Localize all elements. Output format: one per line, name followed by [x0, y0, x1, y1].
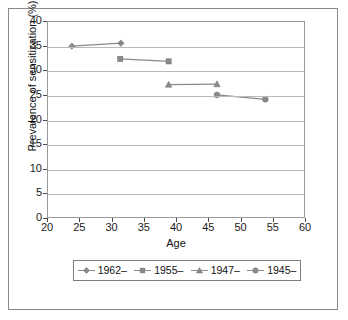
- gridline: [48, 96, 304, 97]
- y-tick-mark: [43, 95, 47, 96]
- series-2: [118, 56, 172, 64]
- square-marker-icon: [134, 266, 151, 275]
- x-tick-label: 30: [97, 221, 127, 233]
- x-tick-label: 60: [290, 221, 320, 233]
- y-tick-label: 5: [2, 187, 42, 198]
- y-tick-label: 10: [2, 163, 42, 174]
- x-tick-mark: [305, 218, 306, 222]
- legend-item-3[interactable]: 1947–: [191, 265, 240, 276]
- series-line: [72, 43, 121, 46]
- circle-marker-icon: [262, 96, 268, 102]
- gridline: [48, 47, 304, 48]
- square-marker-icon: [118, 56, 123, 61]
- y-tick-mark: [43, 70, 47, 71]
- x-tick-mark: [144, 218, 145, 222]
- x-tick-mark: [241, 218, 242, 222]
- chart-figure: Prevalence of sensitization (%) Age 0510…: [0, 0, 348, 320]
- x-tick-mark: [273, 218, 274, 222]
- triangle-marker-icon: [191, 266, 208, 275]
- diamond-marker-icon: [78, 266, 95, 275]
- x-tick-label: 50: [226, 221, 256, 233]
- y-tick-mark: [43, 120, 47, 121]
- y-tick-mark: [43, 21, 47, 22]
- legend-label: 1947–: [211, 265, 240, 276]
- x-tick-label: 40: [161, 221, 191, 233]
- series-3: [165, 81, 220, 87]
- x-tick-label: 20: [32, 221, 62, 233]
- square-marker-icon: [166, 59, 171, 64]
- y-tick-label: 15: [2, 138, 42, 149]
- y-tick-mark: [43, 193, 47, 194]
- x-tick-label: 55: [258, 221, 288, 233]
- gridline: [48, 145, 304, 146]
- y-tick-mark: [43, 46, 47, 47]
- circle-marker-icon: [247, 266, 264, 275]
- legend-label: 1962–: [98, 265, 127, 276]
- y-tick-label: 20: [2, 114, 42, 125]
- y-tick-mark: [43, 144, 47, 145]
- legend-item-4[interactable]: 1945–: [247, 265, 296, 276]
- x-tick-label: 35: [129, 221, 159, 233]
- gridline: [48, 194, 304, 195]
- gridline: [48, 170, 304, 171]
- x-tick-label: 45: [193, 221, 223, 233]
- y-tick-label: 40: [2, 15, 42, 26]
- x-axis-title: Age: [47, 237, 305, 249]
- series-line: [120, 59, 168, 61]
- x-tick-mark: [47, 218, 48, 222]
- y-tick-label: 25: [2, 89, 42, 100]
- gridline: [48, 71, 304, 72]
- legend-item-2[interactable]: 1955–: [134, 265, 183, 276]
- x-tick-mark: [79, 218, 80, 222]
- x-tick-mark: [208, 218, 209, 222]
- plot-area: [47, 21, 305, 218]
- legend-label: 1955–: [154, 265, 183, 276]
- gridline: [48, 121, 304, 122]
- diamond-marker-icon: [118, 40, 124, 46]
- legend-item-1[interactable]: 1962–: [78, 265, 127, 276]
- legend-label: 1945–: [267, 265, 296, 276]
- chart-legend: 1962–1955–1947–1945–: [73, 260, 301, 281]
- x-tick-mark: [112, 218, 113, 222]
- x-tick-label: 25: [64, 221, 94, 233]
- x-tick-mark: [176, 218, 177, 222]
- series-4: [214, 92, 268, 102]
- y-tick-label: 30: [2, 64, 42, 75]
- y-tick-mark: [43, 169, 47, 170]
- y-tick-label: 35: [2, 40, 42, 51]
